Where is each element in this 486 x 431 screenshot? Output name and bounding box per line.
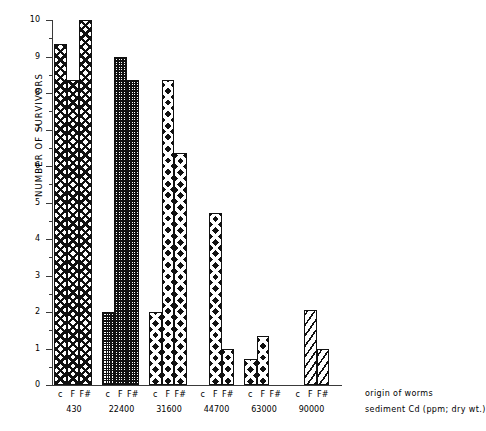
- y-tick-label: 2: [0, 307, 40, 316]
- y-tick-label: 0: [0, 380, 40, 389]
- origin-of-worms-label: origin of worms: [365, 389, 433, 398]
- bar-group: [197, 20, 237, 385]
- bar-44700-F: [209, 213, 222, 385]
- bar-63000-c: [244, 359, 257, 385]
- bar-63000-F: [257, 336, 270, 385]
- bar-31600-F: [162, 80, 175, 385]
- bar-group: [149, 20, 189, 385]
- x-subcategory-label-F#: F#: [266, 390, 285, 399]
- x-axis-line: [52, 385, 342, 386]
- bar-430-F: [67, 80, 80, 385]
- bar-22400-F: [114, 57, 127, 386]
- bar-31600-c: [149, 312, 162, 385]
- x-subcategory-label-F#: F#: [76, 390, 95, 399]
- plot-area: [52, 20, 342, 385]
- y-tick-label: 7: [0, 125, 40, 134]
- bar-22400-F#: [127, 80, 140, 385]
- y-tick-label: 1: [0, 344, 40, 353]
- x-subcategory-label-F#: F#: [171, 390, 190, 399]
- bar-44700-F#: [222, 349, 235, 386]
- y-tick-label: 10: [0, 15, 40, 24]
- bar-22400-c: [102, 312, 115, 385]
- bar-group: [102, 20, 142, 385]
- x-subcategory-label-F#: F#: [124, 390, 143, 399]
- y-tick-mark: [46, 385, 52, 386]
- bar-430-F#: [79, 20, 92, 385]
- sediment-cd-label: sediment Cd (ppm; dry wt.): [365, 405, 486, 414]
- y-tick-label: 8: [0, 88, 40, 97]
- bar-group: [54, 20, 94, 385]
- y-tick-label: 4: [0, 234, 40, 243]
- y-tick-label: 5: [0, 198, 40, 207]
- bar-31600-F#: [174, 153, 187, 385]
- x-subcategory-label-F#: F#: [219, 390, 238, 399]
- x-group-label-90000: 90000: [282, 405, 342, 414]
- bar-90000-F#: [317, 349, 330, 386]
- y-tick-label: 9: [0, 52, 40, 61]
- x-subcategory-label-F#: F#: [314, 390, 333, 399]
- bar-group: [292, 20, 332, 385]
- y-axis-title: NUMBER OF SURVIVORS: [34, 50, 44, 220]
- bar-430-c: [54, 44, 67, 385]
- bar-90000-F: [304, 310, 317, 385]
- y-tick-label: 3: [0, 271, 40, 280]
- y-tick-label: 6: [0, 161, 40, 170]
- bar-group: [244, 20, 284, 385]
